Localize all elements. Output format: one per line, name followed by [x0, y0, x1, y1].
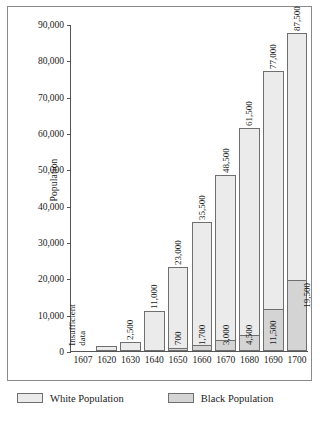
bar-value-label-black: 700 — [173, 332, 183, 346]
chart-legend: White Population Black Population — [7, 388, 312, 408]
bar-segment-white-population[interactable]: 11,000 — [144, 311, 164, 351]
bar-segment-black-population[interactable]: 11,500 — [263, 309, 283, 351]
bar-group[interactable]: 2,5001630 — [120, 342, 140, 351]
bar-value-label-white: 11,000 — [149, 285, 159, 309]
bar-value-label-black: 11,500 — [268, 321, 278, 345]
bar-segment-black-population[interactable]: 700 — [168, 348, 188, 351]
y-axis-tick-label: 80,000 — [38, 56, 64, 66]
bar-segment-white-population[interactable]: 2,500 — [120, 342, 140, 351]
bar-segment-black-population[interactable]: 19,500 — [287, 280, 307, 351]
bar-value-label-white: 23,000 — [173, 241, 183, 266]
legend-swatch-white-icon — [17, 393, 43, 403]
bar-value-label-white: 48,500 — [220, 148, 230, 173]
bar-group[interactable]: 77,00011,5001690 — [263, 71, 283, 351]
bar-value-label-black: 1,700 — [196, 325, 206, 345]
bar-value-label-white: 77,000 — [268, 45, 278, 70]
x-axis-tick-label: 1700 — [288, 355, 307, 365]
y-axis-tick-label: 0 — [59, 347, 64, 357]
bar-value-label-white: 2,500 — [125, 320, 135, 340]
annotation-line-1: Insufficient — [67, 305, 77, 346]
x-axis-tick-label: 1660 — [192, 355, 211, 365]
bar-value-label-white: 87,500 — [292, 6, 302, 31]
x-axis-tick-label: 1680 — [240, 355, 259, 365]
insufficient-data-annotation: Insufficientdata — [67, 305, 88, 346]
bar-group[interactable]: 23,0007001650 — [168, 267, 188, 351]
legend-label-black: Black Population — [201, 393, 274, 404]
y-axis-tick-label: 50,000 — [38, 165, 64, 175]
y-axis-tick-label: 60,000 — [38, 129, 64, 139]
bar-segment-white-population[interactable]: 87,500 — [287, 33, 307, 280]
bar-group[interactable]: 35,5001,7001660 — [192, 222, 212, 351]
x-axis-tick-label: 1650 — [169, 355, 188, 365]
legend-swatch-black-icon — [168, 393, 194, 403]
x-axis-tick-label: 1640 — [145, 355, 164, 365]
y-axis-title: Population — [49, 130, 59, 230]
bar-group[interactable]: 11,0001640 — [144, 311, 164, 351]
bar-group[interactable]: 61,5004,5001680 — [239, 128, 259, 351]
bar-segment-black-population[interactable]: 4,500 — [239, 335, 259, 351]
bar-segment-white-population[interactable]: 61,500 — [239, 128, 259, 335]
bar-value-label-white: 61,500 — [244, 101, 254, 126]
x-axis-tick-label: 1630 — [121, 355, 140, 365]
bar-value-label-black: 4,500 — [244, 325, 254, 345]
bar-segment-white-population[interactable]: 48,500 — [215, 175, 235, 340]
bar-series-container: Insufficientdata160716202,500163011,0001… — [71, 25, 308, 351]
y-axis-tick-label: 10,000 — [38, 311, 64, 321]
y-axis-tick-label: 40,000 — [38, 202, 64, 212]
bar-group[interactable]: 87,50019,5001700 — [287, 33, 307, 351]
bar-segment-white-population[interactable]: 77,000 — [263, 71, 283, 309]
bar-value-label-white: 35,500 — [196, 195, 206, 220]
y-axis-tick-label: 30,000 — [38, 238, 64, 248]
x-axis-tick-label: 1620 — [97, 355, 116, 365]
y-axis-tick — [67, 352, 71, 353]
x-axis-tick-label: 1690 — [264, 355, 283, 365]
chart-page: Population 010,00020,00030,00040,00050,0… — [0, 0, 320, 421]
bar-segment-white-population[interactable] — [96, 346, 116, 351]
bar-segment-black-population[interactable]: 1,700 — [192, 345, 212, 351]
y-axis-tick-label: 20,000 — [38, 274, 64, 284]
bar-segment-black-population[interactable]: 3,000 — [215, 340, 235, 351]
legend-item-black-population: Black Population — [168, 393, 274, 404]
x-axis-tick-label: 1670 — [216, 355, 235, 365]
plot-area: 010,00020,00030,00040,00050,00060,00070,… — [70, 25, 308, 352]
x-axis-tick-label: 1607 — [73, 355, 92, 365]
legend-item-white-population: White Population — [17, 393, 124, 404]
chart-frame: Population 010,00020,00030,00040,00050,0… — [7, 6, 312, 381]
bar-group[interactable]: 48,5003,0001670 — [215, 175, 235, 351]
bar-group[interactable]: 1620 — [96, 346, 116, 351]
y-axis-tick-label: 90,000 — [38, 20, 64, 30]
legend-label-white: White Population — [50, 393, 124, 404]
bar-value-label-black: 3,000 — [220, 325, 230, 345]
annotation-line-2: data — [77, 305, 87, 346]
y-axis-tick-label: 70,000 — [38, 93, 64, 103]
bar-value-label-black: 19,500 — [302, 283, 312, 308]
